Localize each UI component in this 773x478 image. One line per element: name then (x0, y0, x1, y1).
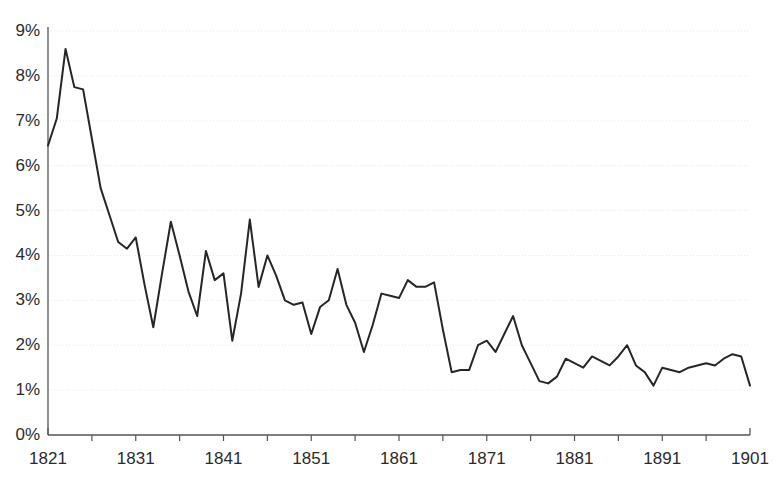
y-tick-label-2pct: 2% (0, 335, 40, 355)
series-line-value (48, 49, 750, 386)
y-tick-label-5pct: 5% (0, 201, 40, 221)
y-tick-label-4pct: 4% (0, 245, 40, 265)
data-series (48, 49, 750, 386)
x-tick-label-1901: 1901 (720, 449, 773, 469)
x-tick-label-1851: 1851 (281, 449, 341, 469)
y-tick-label-7pct: 7% (0, 111, 40, 131)
y-tick-label-6pct: 6% (0, 156, 40, 176)
y-tick-label-1pct: 1% (0, 380, 40, 400)
x-tick-label-1881: 1881 (545, 449, 605, 469)
line-chart: 0%1%2%3%4%5%6%7%8%9% 1821183118411851186… (0, 0, 773, 478)
y-tick-label-3pct: 3% (0, 290, 40, 310)
x-tick-label-1841: 1841 (194, 449, 254, 469)
chart-plot-area (0, 0, 773, 478)
x-tick-label-1821: 1821 (18, 449, 78, 469)
y-tick-label-8pct: 8% (0, 66, 40, 86)
x-tick-label-1831: 1831 (106, 449, 166, 469)
gridlines (48, 31, 750, 390)
y-tick-label-0pct: 0% (0, 425, 40, 445)
y-tick-label-9pct: 9% (0, 21, 40, 41)
x-tick-label-1861: 1861 (369, 449, 429, 469)
x-tick-label-1891: 1891 (632, 449, 692, 469)
x-tick-label-1871: 1871 (457, 449, 517, 469)
